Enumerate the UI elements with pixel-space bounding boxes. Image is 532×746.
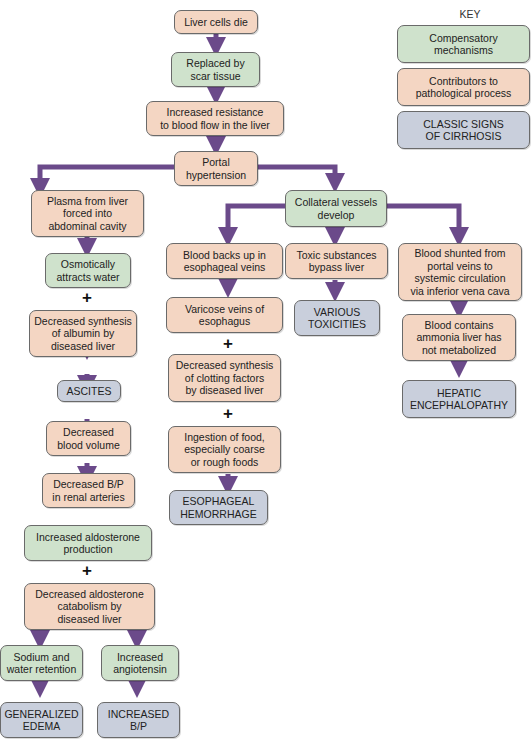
plus-sign: + [218,336,238,352]
node-blood-backs-up: Blood backs up in esophageal veins [166,243,283,279]
node-liver-cells-die: Liver cells die [174,10,258,34]
plus-sign: + [218,406,238,422]
node-osmotically-attracts: Osmotically attracts water [45,253,131,288]
key-title: KEY [440,8,500,20]
node-decreased-bp-renal: Decreased B/P in renal arteries [42,473,135,508]
cirrhosis-flowchart: KEY Compensatory mechanisms Contributors… [0,0,532,746]
node-increased-aldosterone: Increased aldosterone production [24,525,152,561]
node-portal-hypertension: Portal hypertension [174,151,258,186]
node-hepatic-encephalopathy: HEPATIC ENCEPHALOPATHY [402,380,516,418]
node-generalized-edema: GENERALIZED EDEMA [0,702,83,738]
node-toxic-bypass: Toxic substances bypass liver [285,243,388,279]
node-decreased-clotting: Decreased synthesis of clotting factors … [168,354,281,402]
key-classic-signs: CLASSIC SIGNS OF CIRRHOSIS [397,111,530,149]
node-various-toxicities: VARIOUS TOXICITIES [294,300,380,336]
node-ascites: ASCITES [57,380,121,402]
node-increased-angiotensin: Increased angiotensin [101,645,179,681]
key-contributors: Contributors to pathological process [397,68,530,106]
key-compensatory: Compensatory mechanisms [397,25,530,63]
node-plasma-forced: Plasma from liver forced into abdominal … [31,190,144,237]
node-sodium-water-retention: Sodium and water retention [0,645,83,681]
node-replaced-by-scar: Replaced by scar tissue [171,52,260,87]
node-varicose-veins: Varicose veins of esophagus [166,297,283,333]
node-decreased-albumin: Decreased synthesis of albumin by diseas… [29,310,137,357]
node-ingestion-food: Ingestion of food, especially coarse or … [168,426,281,473]
node-esophageal-hemorrhage: ESOPHAGEAL HEMORRHAGE [169,490,268,525]
node-blood-ammonia: Blood contains ammonia liver has not met… [402,314,516,361]
node-increased-bp: INCREASED B/P [97,702,180,738]
node-blood-shunted: Blood shunted from portal veins to syste… [398,243,522,301]
node-collateral-vessels: Collateral vessels develop [285,190,387,227]
node-increased-resistance: Increased resistance to blood flow in th… [146,101,284,136]
plus-sign: + [77,563,97,579]
node-decreased-aldosterone-catabolism: Decreased aldosterone catabolism by dise… [24,583,155,630]
plus-sign: + [77,290,97,306]
node-decreased-blood-volume: Decreased blood volume [46,421,131,456]
